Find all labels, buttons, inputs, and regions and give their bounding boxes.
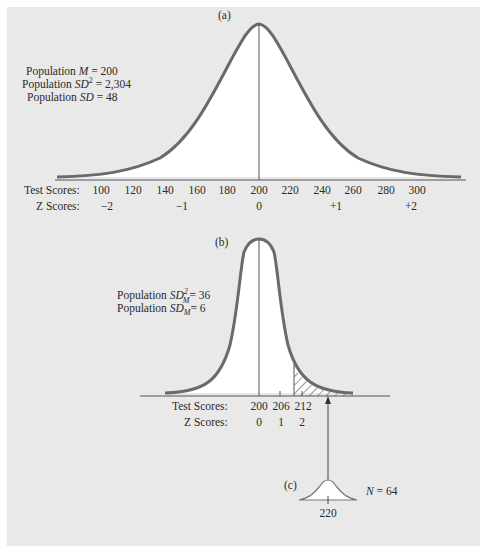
panel-b-label: (b) [215,236,229,249]
panel-b: (b) Population SD2M= 36 Population SDM= … [117,236,390,428]
svg-text:140: 140 [156,184,174,196]
svg-text:2: 2 [299,416,305,428]
svg-text:260: 260 [344,184,362,196]
svg-text:100: 100 [92,184,110,196]
svg-text:240: 240 [313,184,331,196]
panel-c: (c) N = 64 220 [284,479,398,519]
svg-text:−1: −1 [176,200,188,212]
arrow-head-icon [325,396,331,404]
svg-text:212: 212 [294,400,312,412]
panel-c-label: (c) [284,479,297,492]
svg-text:280: 280 [377,184,395,196]
svg-text:200: 200 [250,400,268,412]
z-score-ticks-a: −2 −1 0 +1 +2 [101,200,417,212]
svg-text:+2: +2 [405,200,417,212]
means-sd-text: Population SDM= 6 [117,302,206,317]
svg-text:300: 300 [408,184,426,196]
test-score-ticks-b: 200 206 212 [250,400,312,412]
svg-text:0: 0 [256,200,262,212]
panel-a: (a) Population M = 200 Population SD2 = … [22,9,466,212]
svg-text:120: 120 [124,184,142,196]
z-scores-label-a: Z Scores: [36,200,80,212]
test-scores-label-a: Test Scores: [24,184,80,196]
test-scores-label-b: Test Scores: [172,400,228,412]
figure-svg: (a) Population M = 200 Population SD2 = … [0,0,485,560]
svg-text:220: 220 [281,184,299,196]
panel-a-label: (a) [218,9,231,22]
svg-text:206: 206 [272,400,290,412]
svg-text:160: 160 [188,184,206,196]
svg-text:1: 1 [278,416,284,428]
z-score-ticks-b: 0 1 2 [256,416,305,428]
sample-mean-value: 220 [319,507,337,519]
svg-text:0: 0 [256,416,262,428]
svg-text:200: 200 [250,184,268,196]
population-variance-text: Population SD2 = 2,304 [22,76,131,91]
svg-text:−2: −2 [101,200,113,212]
sample-size-text: N = 64 [365,485,398,497]
sample-arrow [325,396,331,481]
svg-text:180: 180 [218,184,236,196]
population-mean-text: Population M = 200 [26,65,118,78]
population-sd-text: Population SD = 48 [27,91,118,104]
test-score-ticks-a: 100 120 140 160 180 200 220 240 260 280 … [92,184,426,196]
svg-text:+1: +1 [330,200,342,212]
z-scores-label-b: Z Scores: [184,416,228,428]
